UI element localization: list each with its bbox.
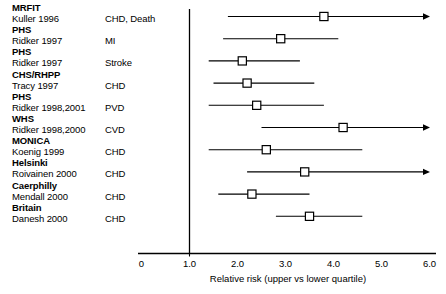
point-estimate-marker xyxy=(301,168,309,176)
study-row: MRFITKuller 1996 xyxy=(12,2,59,24)
forest-row xyxy=(209,57,300,65)
arrow-right-icon xyxy=(423,124,430,130)
study-name: PHS xyxy=(12,91,85,102)
study-author: Roivainen 2000 xyxy=(12,168,77,179)
study-outcome: Stroke xyxy=(105,57,132,68)
study-outcome: CHD xyxy=(105,213,125,224)
x-tick-label: 5.0 xyxy=(375,258,388,269)
study-name: MRFIT xyxy=(12,2,59,13)
point-estimate-marker xyxy=(243,79,251,87)
study-outcome: MI xyxy=(105,35,115,46)
study-name: WHS xyxy=(12,113,85,124)
point-estimate-marker xyxy=(253,101,261,109)
x-tick-label: 3.0 xyxy=(279,258,292,269)
forest-row xyxy=(228,12,430,20)
point-estimate-marker xyxy=(339,123,347,131)
study-author: Tracy 1997 xyxy=(12,80,60,91)
forest-row xyxy=(223,35,338,43)
point-estimate-marker xyxy=(305,212,313,220)
forest-plot: MRFITKuller 1996CHD, DeathPHSRidker 1997… xyxy=(0,0,446,294)
study-row: MONICAKoenig 1999 xyxy=(12,135,64,157)
study-row: PHSRidker 1997 xyxy=(12,46,62,68)
study-author: Ridker 1997 xyxy=(12,57,62,68)
study-outcome: CVD xyxy=(105,124,125,135)
study-author: Ridker 1998,2000 xyxy=(12,124,85,135)
x-tick-label: 1.0 xyxy=(183,258,196,269)
x-tick-label: 6.0 xyxy=(423,258,436,269)
study-row: PHSRidker 1997 xyxy=(12,24,62,46)
study-row: CaerphillyMendall 2000 xyxy=(12,180,68,202)
study-row: PHSRidker 1998,2001 xyxy=(12,91,85,113)
study-outcome: PVD xyxy=(105,102,124,113)
arrow-right-icon xyxy=(423,169,430,175)
forest-row xyxy=(209,146,363,154)
study-row: HelsinkiRoivainen 2000 xyxy=(12,157,77,179)
study-outcome: CHD, Death xyxy=(105,13,155,24)
point-estimate-marker xyxy=(262,146,270,154)
point-estimate-marker xyxy=(320,12,328,20)
study-outcome: CHD xyxy=(105,80,125,91)
point-estimate-marker xyxy=(238,57,246,65)
forest-plot-canvas xyxy=(0,0,446,294)
study-name: PHS xyxy=(12,46,62,57)
study-author: Danesh 2000 xyxy=(12,213,67,224)
study-name: Caerphilly xyxy=(12,180,68,191)
study-author: Mendall 2000 xyxy=(12,191,68,202)
study-outcome: CHD xyxy=(105,191,125,202)
x-tick-label: 2.0 xyxy=(231,258,244,269)
x-tick-label: 0 xyxy=(139,258,144,269)
forest-row xyxy=(262,123,431,131)
study-author: Koenig 1999 xyxy=(12,146,64,157)
study-row: CHS/RHPPTracy 1997 xyxy=(12,69,60,91)
study-author: Kuller 1996 xyxy=(12,13,59,24)
study-author: Ridker 1997 xyxy=(12,35,62,46)
study-name: PHS xyxy=(12,24,62,35)
study-name: Britain xyxy=(12,202,67,213)
point-estimate-marker xyxy=(277,35,285,43)
forest-row xyxy=(247,168,430,176)
x-tick-label: 4.0 xyxy=(327,258,340,269)
study-name: Helsinki xyxy=(12,157,77,168)
study-name: CHS/RHPP xyxy=(12,69,60,80)
study-outcome: CHD xyxy=(105,168,125,179)
study-outcome: CHD xyxy=(105,146,125,157)
study-row: BritainDanesh 2000 xyxy=(12,202,67,224)
study-author: Ridker 1998,2001 xyxy=(12,102,85,113)
point-estimate-marker xyxy=(248,190,256,198)
forest-row xyxy=(276,212,362,220)
forest-row xyxy=(209,101,324,109)
forest-row xyxy=(218,190,309,198)
x-axis-title: Relative risk (upper vs lower quartile) xyxy=(0,273,446,284)
study-name: MONICA xyxy=(12,135,64,146)
study-row: WHSRidker 1998,2000 xyxy=(12,113,85,135)
forest-row xyxy=(214,79,315,87)
arrow-right-icon xyxy=(423,13,430,19)
